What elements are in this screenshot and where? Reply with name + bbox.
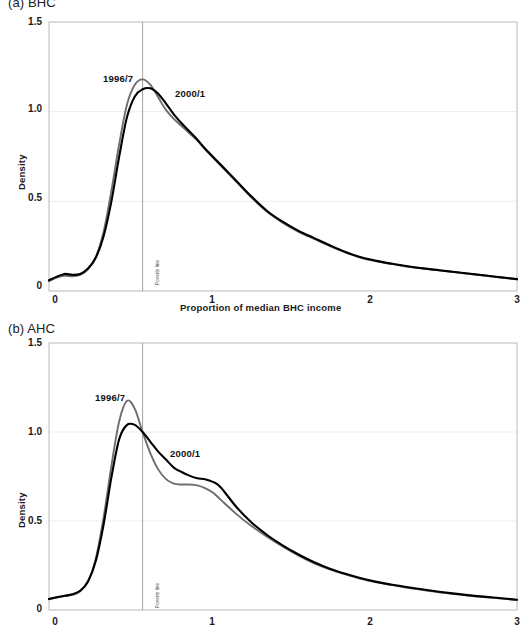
chart-b-poverty-line-label: Poverty line <box>155 583 160 608</box>
chart-b-canvas <box>0 320 530 643</box>
chart-a-xtick-0: 0 <box>48 294 62 305</box>
chart-b: Density Proportion of median BHC income … <box>0 320 530 643</box>
chart-a-canvas <box>0 0 530 320</box>
panel-ahc: (b) AHC Density Proportion of median BHC… <box>0 320 530 643</box>
chart-b-ytick-1_5: 1.5 <box>14 337 42 348</box>
figure-root: (a) BHC Density Proportion of median BHC… <box>0 0 530 643</box>
chart-a-poverty-line-label: Poverty line <box>155 260 160 285</box>
chart-b-xtick-3: 3 <box>510 616 524 627</box>
chart-b-ytick-0_5: 0.5 <box>14 515 42 526</box>
chart-b-xtick-0: 0 <box>48 616 62 627</box>
chart-a-ytick-0: 0 <box>14 280 42 291</box>
chart-b-xtick-2: 2 <box>363 616 377 627</box>
chart-a-ylabel: Density <box>16 154 27 190</box>
chart-a-ytick-1_5: 1.5 <box>14 16 42 27</box>
chart-a-xtick-2: 2 <box>363 294 377 305</box>
density-curve-2000-1 <box>49 88 517 280</box>
chart-b-series-label-2000-1: 2000/1 <box>170 448 200 459</box>
chart-a-ytick-1_0: 1.0 <box>14 103 42 114</box>
chart-b-xtick-1: 1 <box>205 616 219 627</box>
density-curve-2000-1 <box>49 424 517 600</box>
chart-a-series-label-2000-1: 2000/1 <box>175 88 205 99</box>
chart-b-ytick-0: 0 <box>14 603 42 614</box>
chart-a-series-label-1996-7: 1996/7 <box>103 73 133 84</box>
chart-a-xtick-3: 3 <box>510 294 524 305</box>
chart-a-ytick-0_5: 0.5 <box>14 192 42 203</box>
density-curve-1996-7 <box>49 79 517 281</box>
chart-b-series-label-1996-7: 1996/7 <box>95 392 125 403</box>
panel-bhc: (a) BHC Density Proportion of median BHC… <box>0 0 530 320</box>
plot-frame <box>49 343 517 610</box>
density-curve-1996-7 <box>49 400 517 600</box>
chart-b-ytick-1_0: 1.0 <box>14 426 42 437</box>
chart-a: Density Proportion of median BHC income … <box>0 0 530 320</box>
chart-a-xtick-1: 1 <box>205 294 219 305</box>
